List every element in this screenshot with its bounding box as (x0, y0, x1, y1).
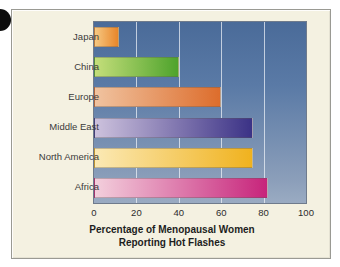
category-label-japan: Japan (0, 31, 99, 42)
x-tick-60: 60 (206, 207, 236, 218)
bar-north-america (94, 148, 253, 168)
category-label-middle-east: Middle East (0, 121, 99, 132)
gridline-60 (221, 22, 222, 203)
gridline-80 (264, 22, 265, 203)
gridline-40 (179, 22, 180, 203)
x-tick-100: 100 (291, 207, 321, 218)
x-tick-40: 40 (164, 207, 194, 218)
corner-bullet-marker (0, 9, 11, 31)
bar-china (94, 57, 179, 77)
category-label-north-america: North America (0, 151, 99, 162)
gridline-20 (136, 22, 137, 203)
x-tick-0: 0 (79, 207, 109, 218)
figure-panel: JapanChinaEuropeMiddle EastNorth America… (11, 9, 331, 259)
x-axis-title: Percentage of Menopausal Women Reporting… (32, 224, 312, 249)
x-axis-title-line-1: Percentage of Menopausal Women (32, 224, 312, 237)
category-label-china: China (0, 61, 99, 72)
bar-europe (94, 87, 221, 107)
plot-area (93, 21, 307, 204)
x-tick-20: 20 (121, 207, 151, 218)
bar-chart: JapanChinaEuropeMiddle EastNorth America… (12, 10, 332, 260)
x-axis-title-line-2: Reporting Hot Flashes (32, 237, 312, 250)
category-label-europe: Europe (0, 91, 99, 102)
x-tick-80: 80 (249, 207, 279, 218)
bar-middle-east (94, 118, 253, 138)
category-label-africa: Africa (0, 181, 99, 192)
bar-africa (94, 178, 268, 198)
